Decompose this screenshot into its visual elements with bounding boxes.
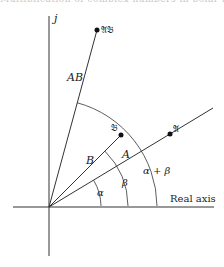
point-b-label: 𝔅 [111, 123, 118, 133]
vector-b-label: B [85, 154, 94, 167]
vector-b [49, 135, 121, 207]
point-b-dot [119, 133, 124, 138]
point-ab-label: 𝔄𝔅 [101, 25, 114, 35]
beta-angle-label: β [121, 177, 128, 188]
alpha-plus-beta-label: α + β [143, 165, 170, 176]
point-ab-dot [95, 28, 100, 33]
vector-a-label: A [121, 148, 130, 161]
vector-ab [49, 30, 97, 207]
phasor-diagram: j Real axis 𝔄𝔅 𝔅 𝔄 AB B A α β α + β [0, 0, 224, 267]
alpha-angle-label: α [97, 187, 104, 198]
point-a-dot [168, 132, 173, 137]
real-axis-label: Real axis [170, 193, 216, 204]
vector-ab-label: AB [66, 71, 83, 84]
point-a-label: 𝔄 [173, 124, 179, 134]
imaginary-axis-label: j [51, 12, 58, 25]
